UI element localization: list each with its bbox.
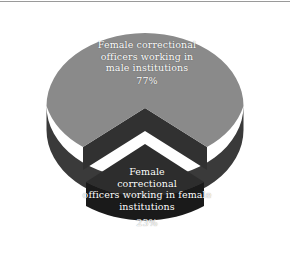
pie-chart-figure: Female correctional officers working in …: [0, 0, 290, 265]
pie-chart-graphic: [0, 0, 290, 265]
